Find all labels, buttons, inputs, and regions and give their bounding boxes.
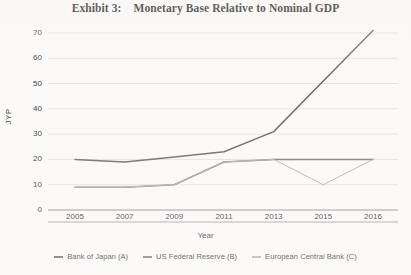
series-line bbox=[75, 159, 373, 187]
legend-item: US Federal Reserve (B) bbox=[143, 252, 237, 261]
plot-area: 706050403020100 200520072009201120132015… bbox=[0, 0, 411, 275]
legend-swatch-icon bbox=[54, 256, 63, 258]
x-axis-tick-label: 2015 bbox=[300, 213, 346, 221]
legend-item: Bank of Japan (A) bbox=[54, 252, 128, 261]
x-axis-tick-label: 2005 bbox=[52, 213, 98, 221]
legend-label: Bank of Japan (A) bbox=[67, 252, 128, 261]
y-axis-tick-label: 10 bbox=[12, 181, 42, 189]
chart-legend: Bank of Japan (A)US Federal Reserve (B)E… bbox=[0, 252, 411, 261]
y-axis-tick-label: 60 bbox=[12, 54, 42, 62]
legend-swatch-icon bbox=[252, 256, 261, 258]
y-axis-tick-label: 70 bbox=[12, 29, 42, 37]
x-axis-tick-label: 2013 bbox=[251, 213, 297, 221]
gridlines bbox=[48, 33, 398, 210]
series-line bbox=[75, 159, 373, 187]
y-axis-title: JYP bbox=[4, 97, 13, 137]
x-axis-tick-label: 2016 bbox=[350, 213, 396, 221]
legend-label: European Central Bank (C) bbox=[265, 252, 357, 261]
y-axis-tick-label: 50 bbox=[12, 80, 42, 88]
y-axis-tick-label: 40 bbox=[12, 105, 42, 113]
series-line bbox=[75, 31, 373, 163]
x-axis-tick-label: 2007 bbox=[102, 213, 148, 221]
legend-swatch-icon bbox=[143, 256, 152, 258]
legend-item: European Central Bank (C) bbox=[252, 252, 357, 261]
x-axis-tick-label: 2009 bbox=[151, 213, 197, 221]
legend-label: US Federal Reserve (B) bbox=[156, 252, 237, 261]
y-axis-tick-label: 30 bbox=[12, 130, 42, 138]
y-axis-tick-label: 0 bbox=[12, 206, 42, 214]
x-axis-tick-label: 2011 bbox=[201, 213, 247, 221]
y-axis-tick-label: 20 bbox=[12, 155, 42, 163]
x-axis-title: Year bbox=[0, 231, 411, 240]
chart-screenshot: Exhibit 3: Monetary Base Relative to Nom… bbox=[0, 0, 411, 275]
